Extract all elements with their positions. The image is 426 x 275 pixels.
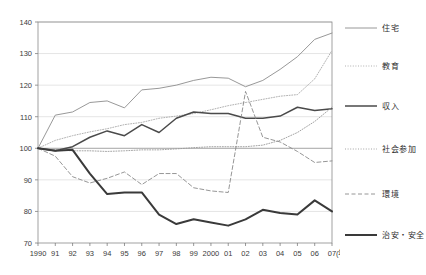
x-axis-tick-label: 01	[224, 249, 232, 258]
legend-item-1[interactable]: 教育	[345, 60, 399, 71]
x-axis-tick-label: 92	[68, 249, 76, 258]
plot-frame	[38, 22, 332, 243]
legend-swatch-icon	[345, 232, 377, 238]
x-axis-tick-label: 04	[276, 249, 284, 258]
x-axis-tick-label: 03	[259, 249, 267, 258]
y-axis-tick-label: 110	[20, 113, 32, 122]
x-axis-tick-label: 1990	[30, 249, 47, 258]
legend-item-4[interactable]: 環境	[345, 188, 399, 199]
legend-label: 治安・安全	[382, 229, 425, 240]
x-axis-unit-label: (年)	[336, 248, 340, 258]
chart-legend: 住宅教育収入社会参加環境治安・安全	[345, 0, 426, 275]
y-axis-tick-label: 100	[19, 144, 32, 153]
x-axis-tick-label: 94	[103, 249, 111, 258]
legend-swatch-icon	[345, 63, 377, 69]
series-line-3	[38, 107, 332, 151]
legend-label: 社会参加	[382, 143, 416, 154]
legend-label: 環境	[382, 188, 399, 199]
x-axis-tick-label: 97	[155, 249, 163, 258]
legend-item-3[interactable]: 社会参加	[345, 143, 416, 154]
legend-swatch-icon	[345, 146, 377, 152]
legend-label: 住宅	[382, 22, 399, 33]
series-line-2	[38, 107, 332, 151]
y-axis-tick-label: 80	[24, 207, 32, 216]
legend-swatch-icon	[345, 25, 377, 31]
plot-area: 7080901001101201301401990919293949596979…	[0, 0, 340, 275]
x-axis-tick-label: 02	[241, 249, 249, 258]
series-line-1	[38, 50, 332, 148]
x-axis-tick-label: 99	[189, 249, 197, 258]
x-axis-tick-label: 2000	[203, 249, 220, 258]
y-axis-tick-label: 120	[19, 81, 32, 90]
y-axis-tick-label: 130	[19, 49, 32, 58]
x-axis-tick-label: 98	[172, 249, 180, 258]
series-line-0	[38, 33, 332, 148]
x-axis-tick-label: 95	[120, 249, 128, 258]
chart-svg: 7080901001101201301401990919293949596979…	[0, 0, 340, 275]
legend-swatch-icon	[345, 103, 377, 109]
x-axis-tick-label: 05	[293, 249, 301, 258]
y-axis-tick-label: 70	[24, 239, 32, 248]
x-axis-tick-label: 91	[51, 249, 59, 258]
legend-label: 収入	[382, 100, 399, 111]
legend-swatch-icon	[345, 191, 377, 197]
y-axis-tick-label: 90	[24, 176, 32, 185]
legend-item-0[interactable]: 住宅	[345, 22, 399, 33]
x-axis-tick-label: 93	[86, 249, 94, 258]
y-axis-tick-label: 140	[19, 18, 32, 27]
legend-item-2[interactable]: 収入	[345, 100, 399, 111]
x-axis-tick-label: 96	[138, 249, 146, 258]
legend-item-5[interactable]: 治安・安全	[345, 229, 425, 240]
series-line-5	[38, 148, 332, 225]
line-chart: 7080901001101201301401990919293949596979…	[0, 0, 426, 275]
x-axis-tick-label: 07	[328, 249, 336, 258]
legend-label: 教育	[382, 60, 399, 71]
x-axis-tick-label: 06	[311, 249, 319, 258]
